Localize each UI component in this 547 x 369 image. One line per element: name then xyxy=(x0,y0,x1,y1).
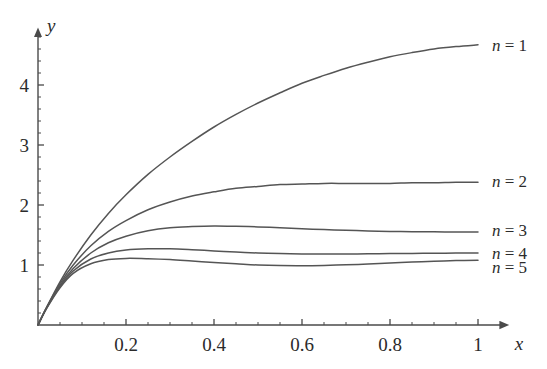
curve-n-5 xyxy=(38,258,478,325)
plot-canvas xyxy=(0,0,547,369)
y-tick-label: 1 xyxy=(20,256,30,275)
legend-value: 2 xyxy=(519,172,528,191)
curve-label-n-3: n = 3 xyxy=(492,222,527,239)
curve-label-n-2: n = 2 xyxy=(492,173,527,190)
legend-equals: = xyxy=(501,35,519,54)
legend-variable: n xyxy=(492,172,501,191)
legend-equals: = xyxy=(501,257,519,276)
x-tick-label: 1 xyxy=(473,335,483,354)
x-tick-label: 0.2 xyxy=(114,335,138,354)
curve-label-n-1: n = 1 xyxy=(492,36,527,53)
y-tick-label: 4 xyxy=(20,76,30,95)
curve-n-3 xyxy=(38,226,478,325)
legend-value: 1 xyxy=(519,35,528,54)
y-axis-label: y xyxy=(47,16,55,35)
y-tick-label: 3 xyxy=(20,136,30,155)
x-tick-label: 0.6 xyxy=(290,335,314,354)
x-axis-label: x xyxy=(515,334,523,353)
curve-n-1 xyxy=(38,45,478,325)
axis-ticks xyxy=(38,37,478,325)
legend-value: 3 xyxy=(519,221,528,240)
data-curves xyxy=(38,45,478,325)
legend-variable: n xyxy=(492,35,501,54)
chart-figure: 0.20.40.60.81 1234 n = 1n = 2n = 3n = 4n… xyxy=(0,0,547,369)
legend-value: 5 xyxy=(519,257,528,276)
y-tick-label: 2 xyxy=(20,196,30,215)
x-tick-label: 0.8 xyxy=(378,335,402,354)
legend-equals: = xyxy=(501,221,519,240)
curve-label-n-5: n = 5 xyxy=(492,258,527,275)
axis-lines xyxy=(38,36,501,325)
legend-equals: = xyxy=(501,172,519,191)
x-tick-label: 0.4 xyxy=(202,335,226,354)
legend-variable: n xyxy=(492,221,501,240)
legend-variable: n xyxy=(492,257,501,276)
